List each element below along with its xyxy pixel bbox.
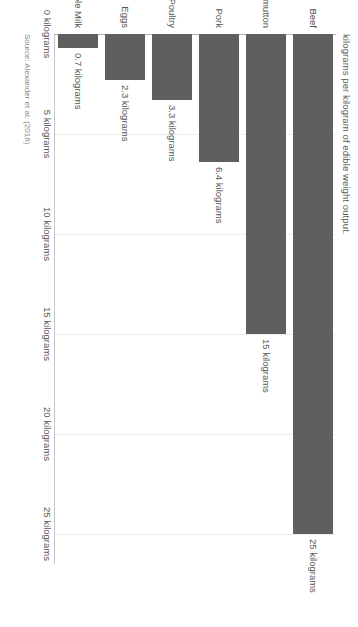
bar-series: 25 kilograms15 kilograms6.4 kilograms3.3… bbox=[55, 34, 336, 564]
plot-area: 25 kilograms15 kilograms6.4 kilograms3.3… bbox=[55, 34, 336, 564]
value-axis-tick-label: 25 kilograms bbox=[42, 507, 53, 561]
bar-value-label: 15 kilograms bbox=[260, 334, 271, 393]
value-axis-tick-label: 20 kilograms bbox=[42, 407, 53, 461]
category-axis-label: Eggs bbox=[105, 6, 145, 28]
bar-value-label: 0.7 kilograms bbox=[73, 48, 84, 110]
source-note: Source: Alexander et al. (2016) bbox=[23, 34, 32, 144]
value-axis: 0 kilograms5 kilograms10 kilograms15 kil… bbox=[33, 34, 55, 564]
category-axis-label: Lamb/mutton bbox=[246, 0, 286, 28]
bar[interactable] bbox=[199, 34, 239, 162]
bar-row[interactable]: 0.7 kilograms bbox=[58, 34, 98, 564]
value-axis-tick-label: 10 kilograms bbox=[42, 207, 53, 261]
category-axis-label: Poultry bbox=[152, 0, 192, 28]
value-axis-tick-label: 5 kilograms bbox=[42, 110, 53, 159]
bar-value-label: 6.4 kilograms bbox=[213, 162, 224, 224]
bar[interactable] bbox=[105, 34, 145, 80]
bar-row[interactable]: 2.3 kilograms bbox=[105, 34, 145, 564]
bar-value-label: 2.3 kilograms bbox=[120, 80, 131, 142]
bar[interactable] bbox=[58, 34, 98, 48]
bar-row[interactable]: 15 kilograms bbox=[246, 34, 286, 564]
bar[interactable] bbox=[152, 34, 192, 100]
category-axis-label: Beef bbox=[293, 8, 333, 28]
bar-value-label: 3.3 kilograms bbox=[167, 100, 178, 162]
bar[interactable] bbox=[246, 34, 286, 334]
chart-rotation-wrapper: kilograms per kilogram of edible weight … bbox=[0, 0, 358, 627]
bar[interactable] bbox=[293, 34, 333, 534]
category-axis-label: Pork bbox=[199, 8, 239, 28]
bar-row[interactable]: 25 kilograms bbox=[293, 34, 333, 564]
value-axis-tick-label: 0 kilograms bbox=[42, 10, 53, 59]
category-axis-label: Whole Milk bbox=[58, 0, 98, 28]
category-axis: BeefLamb/muttonPorkPoultryEggsWhole Milk bbox=[55, 0, 336, 32]
bar-chart: kilograms per kilogram of edible weight … bbox=[0, 0, 358, 627]
chart-subtitle: kilograms per kilogram of edible weight … bbox=[341, 34, 352, 235]
bar-value-label: 25 kilograms bbox=[307, 534, 318, 593]
bar-row[interactable]: 3.3 kilograms bbox=[152, 34, 192, 564]
bar-row[interactable]: 6.4 kilograms bbox=[199, 34, 239, 564]
value-axis-tick-label: 15 kilograms bbox=[42, 307, 53, 361]
